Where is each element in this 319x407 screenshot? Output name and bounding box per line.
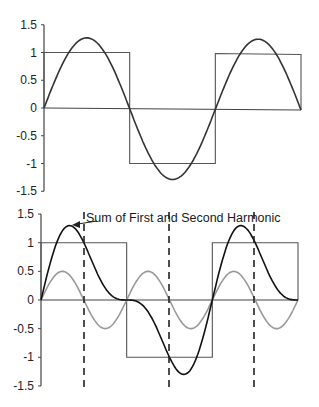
annotation: Sum of First and Second Harmonic (72, 211, 281, 228)
y-tick-label: 0.5 (17, 264, 34, 278)
y-tick-label: 1 (30, 46, 37, 60)
chart-sum-of-harmonics: 1.510.50-0.5-1-1.5 Sum of First and Seco… (13, 207, 298, 393)
x-axis-line (44, 108, 301, 110)
y-tick-label: 0 (30, 101, 37, 115)
y-tick-label: 0 (27, 293, 34, 307)
harmonics-figure: 1.510.50-0.5-1-1.5 1.510.50-0.5-1-1.5 Su… (0, 0, 319, 407)
y-tick-label: -1 (23, 350, 34, 364)
annotation-label: Sum of First and Second Harmonic (86, 211, 281, 225)
y-tick-label: 1.5 (20, 18, 37, 32)
y-tick-label: -1.5 (16, 184, 37, 198)
y-tick-label: 1 (27, 236, 34, 250)
y-tick-label: -0.5 (13, 322, 34, 336)
chart-square-vs-first-harmonic: 1.510.50-0.5-1-1.5 (16, 18, 301, 199)
y-tick-label: 1.5 (17, 207, 34, 221)
y-tick-label: -0.5 (16, 129, 37, 143)
y-tick-label: -1 (26, 157, 37, 171)
y-tick-label: 0.5 (20, 73, 37, 87)
y-tick-label: -1.5 (13, 379, 34, 393)
